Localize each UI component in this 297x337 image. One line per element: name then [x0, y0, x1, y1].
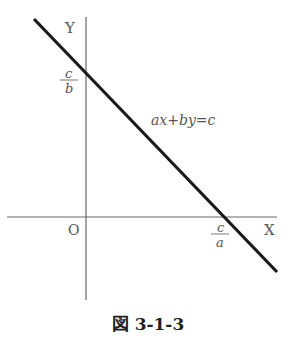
- y-intercept-label: c b: [60, 66, 78, 96]
- figure-caption: 図 3-1-3: [112, 314, 185, 334]
- equation-label: ax+by=c: [151, 112, 216, 128]
- x-intercept-denominator: a: [216, 235, 224, 250]
- figure-canvas: Y c b ax+by=c O c a X 図 3-1-3: [0, 0, 297, 337]
- x-axis-label: X: [264, 221, 275, 239]
- y-intercept-denominator: b: [65, 81, 73, 96]
- x-intercept-numerator: c: [217, 220, 225, 235]
- origin-label: O: [68, 222, 79, 238]
- y-intercept-numerator: c: [65, 66, 73, 81]
- x-intercept-label: c a: [211, 220, 229, 250]
- y-axis-label: Y: [64, 19, 76, 37]
